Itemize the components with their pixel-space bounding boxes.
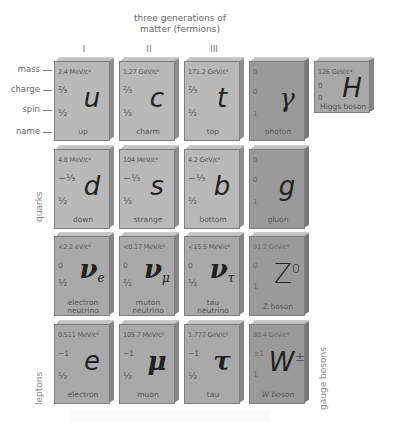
charge-value: 0 <box>123 261 128 270</box>
particle-symbol: μ <box>138 341 176 381</box>
particle-name: top <box>185 128 241 136</box>
mass-value: 171.2 GeV/c² <box>188 68 228 76</box>
particle-symbol: b <box>203 166 241 206</box>
particle-card-strange[interactable]: 104 MeV/c² −⅓ ½ s strange <box>119 145 177 228</box>
particle-card-muon[interactable]: 105.7 MeV/c² −1 ½ μ muon <box>119 320 177 403</box>
particle-card-up[interactable]: 2.4 MeV/c² ⅔ ½ u up <box>54 57 112 140</box>
particle-name: tau <box>185 391 241 399</box>
spin-value: ½ <box>58 277 67 288</box>
tick-spin <box>43 110 52 111</box>
particle-symbol: νμ <box>138 249 176 298</box>
spin-value: ½ <box>123 195 132 206</box>
particle-symbol: c <box>138 78 176 118</box>
charge-value: 0 <box>253 261 258 270</box>
header-line-1: three generations of <box>105 13 255 24</box>
spin-value: ½ <box>123 107 132 118</box>
particle-card-muon-neutrino[interactable]: <0.17 MeV/c² 0 ½ νμ mutonneutrino <box>119 232 177 315</box>
particle-card-top[interactable]: 171.2 GeV/c² ⅔ ½ t top <box>184 57 242 140</box>
spin-value: ½ <box>188 370 197 381</box>
row-label-charge: charge <box>0 84 40 94</box>
particle-card-z-boson[interactable]: 91.2 GeV/c² 0 1 Z0 Z boson <box>249 232 307 315</box>
particle-card-photon[interactable]: 0 0 1 γ photon <box>249 57 307 140</box>
row-label-mass: mass <box>0 64 40 74</box>
particle-card-tau[interactable]: 1.777 GeV/c² −1 ½ τ tau <box>184 320 242 403</box>
charge-value: ⅔ <box>58 84 67 95</box>
particle-symbol: t <box>203 78 241 118</box>
mass-value: 0.511 MeV/c² <box>58 331 99 339</box>
particle-card-charm[interactable]: 1.27 GeV/c² ⅔ ½ c charm <box>119 57 177 140</box>
spin-value: 1 <box>253 198 257 206</box>
spin-value: ½ <box>123 277 132 288</box>
particle-name: photon <box>250 128 306 136</box>
particle-symbol: g <box>268 166 306 206</box>
particle-symbol: γ <box>268 78 306 118</box>
particle-name: down <box>55 216 111 224</box>
spin-value: ½ <box>123 370 132 381</box>
mass-value: 2.4 MeV/c² <box>58 68 91 76</box>
particle-card-electron-neutrino[interactable]: <2.2 eV/c² 0 ½ νe electronneutrino <box>54 232 112 315</box>
group-label-gauge-bosons: gauge bosons <box>318 347 328 410</box>
charge-value: 0 <box>188 261 193 270</box>
spin-value: 1 <box>253 370 258 379</box>
faint-reflection <box>70 410 270 422</box>
charge-value: ⅔ <box>188 84 197 95</box>
header-title: three generations of matter (fermions) <box>105 13 255 35</box>
mass-value: 0 <box>253 156 257 164</box>
particle-symbol: νe <box>73 249 111 298</box>
particle-symbol: W± <box>268 337 306 382</box>
generation-1-label: I <box>74 44 94 54</box>
spin-value: ½ <box>58 370 67 381</box>
spin-value: 1 <box>253 282 258 291</box>
particle-name: strange <box>120 216 176 224</box>
particle-symbol: ντ <box>203 249 241 298</box>
particle-name: gluon <box>250 216 306 224</box>
particle-symbol: u <box>73 78 111 118</box>
particle-name: electron <box>55 391 111 399</box>
charge-value: −1 <box>188 349 199 358</box>
particle-name: Higgs boson <box>315 103 371 111</box>
tick-name <box>43 132 52 133</box>
particle-name: W boson <box>250 391 306 399</box>
particle-card-bottom[interactable]: 4.2 GeV/c² −⅓ ½ b bottom <box>184 145 242 228</box>
spin-value: ½ <box>188 107 197 118</box>
particle-card-gluon[interactable]: 0 0 1 g gluon <box>249 145 307 228</box>
particle-name: Z boson <box>250 303 306 311</box>
particle-name: muon <box>120 391 176 399</box>
particle-name: tauneutrino <box>185 299 241 315</box>
spin-value: ½ <box>188 277 197 288</box>
particle-symbol: s <box>138 166 176 206</box>
mass-value: 1.27 GeV/c² <box>123 68 159 76</box>
charge-value: −1 <box>58 349 69 358</box>
particle-symbol: τ <box>203 341 241 381</box>
spin-value: ½ <box>58 107 67 118</box>
particle-card-higgs[interactable]: 126 GeV/c² 0 0 H Higgs boson <box>314 57 372 112</box>
particle-symbol: d <box>73 166 111 206</box>
generation-2-label: II <box>139 44 159 54</box>
charge-value: ±1 <box>253 349 264 358</box>
particle-card-electron[interactable]: 0.511 MeV/c² −1 ½ e electron <box>54 320 112 403</box>
spin-value: ½ <box>188 195 197 206</box>
charge-value: −1 <box>123 349 134 358</box>
mass-value: 1.777 GeV/c² <box>188 331 228 339</box>
mass-value: 104 MeV/c² <box>123 156 158 164</box>
particle-name: up <box>55 128 111 136</box>
particle-symbol: Z0 <box>268 249 306 294</box>
particle-name: mutonneutrino <box>120 299 176 315</box>
particle-name: electronneutrino <box>55 299 111 315</box>
particle-card-down[interactable]: 4.8 MeV/c² −⅓ ½ d down <box>54 145 112 228</box>
tick-mass <box>43 70 52 71</box>
charge-value: 0 <box>58 261 63 270</box>
header-line-2: matter (fermions) <box>105 24 255 35</box>
mass-value: 0 <box>253 68 257 76</box>
row-label-name: name <box>0 126 40 136</box>
generation-3-label: III <box>204 44 224 54</box>
mass-value: 4.8 MeV/c² <box>58 156 91 164</box>
spin-value: 1 <box>253 110 257 118</box>
particle-card-w-boson[interactable]: 80.4 GeV/c² ±1 1 W± W boson <box>249 320 307 403</box>
particle-symbol: e <box>73 341 111 381</box>
particle-card-tau-neutrino[interactable]: <15.5 MeV/c² 0 ½ ντ tauneutrino <box>184 232 242 315</box>
particle-name: charm <box>120 128 176 136</box>
mass-value: 105.7 MeV/c² <box>123 331 164 339</box>
tick-charge <box>43 90 52 91</box>
row-label-spin: spin <box>0 104 40 114</box>
